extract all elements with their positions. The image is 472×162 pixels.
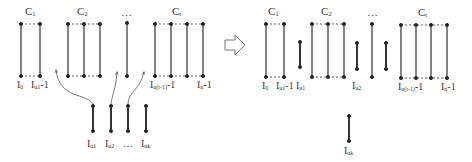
left-cluster-c2 (66, 22, 101, 77)
right-inserted-interval (384, 41, 387, 70)
left-label-ellipsis: … (121, 7, 132, 18)
right-label-iu2: Iu2 (352, 81, 361, 93)
left-free-label-ellipsis: … (123, 139, 133, 149)
right-label-i0: I0 (262, 81, 268, 93)
left-free-label-iu2: Iu2 (105, 139, 114, 151)
left-free-label-iuk: Iuk (141, 139, 150, 151)
right-label-iutm1-minus-1: Iu(t-1)-1 (398, 82, 423, 94)
right-label-iu1: Iu1 (296, 81, 305, 93)
left-label-ct: Ct (172, 6, 181, 20)
right-label-iu1-minus-1: Iu1-1 (276, 81, 294, 93)
right-cluster-c1 (264, 22, 285, 78)
left-label-iutm1-minus-1: Iu(t-1)-1 (150, 80, 175, 92)
transform-arrow-icon (225, 35, 245, 55)
right-label-ct: Ct (418, 7, 427, 21)
right-label-c1: C1 (268, 6, 279, 20)
right-label-in-minus-1: In-1 (441, 82, 456, 94)
right-cluster-c2 (310, 22, 345, 78)
left-label-i0: I0 (17, 80, 23, 92)
left-free-intervals (91, 104, 147, 132)
right-label-ellipsis: … (367, 7, 378, 18)
right-label-iuk: Iuk (344, 146, 353, 158)
left-label-iu1-minus-1: Iu1-1 (31, 80, 49, 92)
right-cluster-ellipsis (370, 22, 373, 78)
left-cluster-c1 (19, 22, 41, 77)
left-label-c1: C1 (25, 6, 36, 20)
left-cluster-ct (153, 22, 204, 77)
right-cluster-ct (399, 23, 448, 79)
left-cluster-ellipsis (125, 21, 128, 77)
right-label-c2: C2 (321, 6, 332, 20)
right-inserted-iu1 (298, 40, 301, 68)
right-detached-iuk (347, 114, 350, 142)
right-inserted-iu2 (355, 41, 358, 70)
left-label-in-minus-1: In-1 (197, 80, 212, 92)
left-free-label-iu1: Iu1 (87, 139, 96, 151)
left-label-c2: C2 (77, 6, 88, 20)
